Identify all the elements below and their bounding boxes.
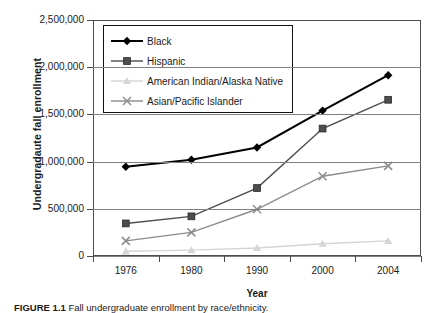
data-point-marker (188, 213, 195, 220)
series-line (126, 166, 388, 241)
y-tick-label: 1,000,000 (26, 157, 84, 167)
x-tick-mark (224, 256, 225, 262)
gridline (93, 162, 421, 163)
gridline (93, 256, 421, 257)
legend-label: Black (144, 36, 171, 47)
x-tick-label: 1990 (227, 265, 287, 276)
y-tick-label: 2,000,000 (26, 62, 84, 72)
caption-label: FIGURE 1.1 (14, 302, 66, 313)
x-tick-mark (93, 256, 94, 262)
chart-legend: BlackHispanicAmerican Indian/Alaska Nati… (103, 25, 293, 113)
x-tick-mark (421, 256, 422, 262)
legend-label: Hispanic (144, 56, 185, 67)
x-axis-title: Year (93, 288, 421, 299)
legend-marker-icon (110, 54, 144, 68)
data-point-marker (187, 156, 195, 164)
gridline (93, 114, 421, 115)
legend-item-3: American Indian/Alaska Native (104, 71, 292, 91)
series-4 (122, 162, 392, 245)
data-point-marker (122, 220, 129, 227)
legend-label: Asian/Pacific Islander (144, 96, 243, 107)
y-tick-label: 1,500,000 (26, 109, 84, 119)
x-tick-label: 1976 (96, 265, 156, 276)
x-tick-label: 2004 (358, 265, 418, 276)
y-axis-tick-labels: 0500,0001,000,0001,500,0002,000,0002,500… (26, 0, 84, 312)
caption-text: Fall undergraduate enrollment by race/et… (68, 302, 268, 313)
x-tick-label: 1980 (161, 265, 221, 276)
y-tick-label: 2,500,000 (26, 15, 84, 25)
data-point-marker (253, 143, 261, 151)
legend-marker-icon (110, 34, 144, 48)
data-point-marker (319, 125, 326, 132)
gridline (93, 20, 421, 21)
legend-item-4: Asian/Pacific Islander (104, 91, 292, 111)
data-point-marker (384, 71, 392, 79)
gridline (93, 67, 421, 68)
legend-marker-icon (110, 94, 144, 108)
gridline (93, 209, 421, 210)
y-tick-label: 500,000 (26, 204, 84, 214)
x-tick-mark (290, 256, 291, 262)
series-3 (122, 237, 392, 255)
legend-item-1: Black (104, 31, 292, 51)
x-tick-label: 2000 (293, 265, 353, 276)
x-tick-mark (159, 256, 160, 262)
legend-label: American Indian/Alaska Native (144, 76, 283, 87)
data-point-marker (385, 96, 392, 103)
y-tick-label: 0 (26, 251, 84, 261)
figure-caption: FIGURE 1.1 Fall undergraduate enrollment… (14, 302, 438, 313)
x-tick-mark (355, 256, 356, 262)
legend-marker-icon (110, 74, 144, 88)
data-point-marker (122, 163, 130, 171)
data-point-marker (254, 185, 261, 192)
